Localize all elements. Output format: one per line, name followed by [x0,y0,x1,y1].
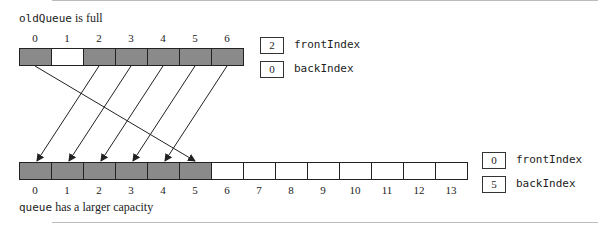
array-cell [435,162,468,180]
array-index: 7 [243,184,275,196]
array-cell [243,162,276,180]
copy-arrow [37,66,99,161]
array-index: 2 [83,184,115,196]
copy-arrow [101,66,163,161]
new-front-index-value: 0 [482,152,506,169]
copy-arrow [165,66,227,161]
array-index: 3 [115,184,147,196]
array-index: 9 [307,184,339,196]
array-cell [179,162,212,180]
array-index: 10 [339,184,371,196]
array-cell [275,162,308,180]
array-cell [339,162,372,180]
array-index: 13 [435,184,467,196]
bottom-caption-text: has a larger capacity [52,200,153,214]
array-index: 8 [275,184,307,196]
array-index: 11 [371,184,403,196]
bottom-rule [52,222,598,223]
copy-arrow [133,66,195,161]
array-index: 0 [19,184,51,196]
new-front-index-label: frontIndex [516,153,582,166]
bottom-caption: queue has a larger capacity [19,200,153,215]
array-cell [147,162,180,180]
copy-arrows [0,0,598,232]
array-cell [211,162,244,180]
array-index: 6 [211,184,243,196]
array-index: 5 [179,184,211,196]
array-cell [83,162,116,180]
array-index: 12 [403,184,435,196]
copy-arrow [35,66,195,161]
array-index: 1 [51,184,83,196]
array-cell [371,162,404,180]
array-cell [19,162,52,180]
array-cell [115,162,148,180]
queue-name: queue [19,201,52,214]
array-cell [403,162,436,180]
array-cell [307,162,340,180]
new-back-index-label: backIndex [516,177,576,190]
array-index: 4 [147,184,179,196]
copy-arrow [69,66,131,161]
new-back-index-value: 5 [482,176,506,193]
array-cell [51,162,84,180]
